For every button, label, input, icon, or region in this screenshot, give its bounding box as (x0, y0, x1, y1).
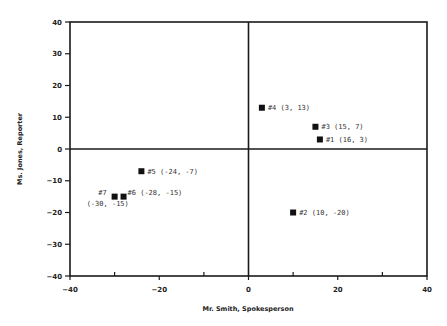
square-marker-icon (138, 168, 144, 174)
y-tick-label: −20 (46, 209, 62, 217)
square-marker-icon (312, 124, 318, 130)
y-tick-label: −40 (46, 273, 62, 281)
point-label: #3 (15, 7) (321, 123, 363, 131)
square-marker-icon (290, 210, 296, 216)
x-tick-label: 0 (246, 286, 251, 294)
y-tick-label: 20 (52, 82, 62, 90)
x-tick-label: −40 (62, 286, 78, 294)
data-point: #2 (10, -20) (290, 209, 350, 217)
y-tick-label: −30 (46, 241, 62, 249)
x-tick-label: 40 (422, 286, 432, 294)
point-label: #5 (-24, -7) (147, 168, 198, 176)
scatter-chart: −40−30−20−10010203040−40−2002040 #1 (16,… (0, 0, 447, 326)
x-tick-label: −20 (151, 286, 167, 294)
y-tick-label: 40 (52, 19, 62, 27)
square-marker-icon (259, 105, 265, 111)
point-label: #7 (98, 189, 106, 197)
data-point: #6 (-28, -15) (121, 189, 183, 200)
plot-frame (70, 22, 427, 276)
y-axis-title: Ms. Jones, Reporter (16, 112, 24, 185)
point-label: #1 (16, 3) (326, 136, 368, 144)
x-tick-label: 20 (333, 286, 343, 294)
data-point: #4 (3, 13) (259, 104, 310, 112)
data-point: #1 (16, 3) (317, 136, 368, 144)
y-tick-label: 10 (52, 114, 62, 122)
data-point: #5 (-24, -7) (138, 168, 198, 176)
y-tick-label: −10 (46, 177, 62, 185)
data-point: #3 (15, 7) (312, 123, 363, 131)
point-label: #4 (3, 13) (268, 104, 310, 112)
point-coords-label: (-30, -15) (87, 200, 129, 208)
y-tick-label: 0 (57, 146, 62, 154)
square-marker-icon (317, 136, 323, 142)
point-label: #6 (-28, -15) (128, 189, 183, 197)
y-tick-label: 30 (52, 50, 62, 58)
x-axis-title: Mr. Smith, Spokesperson (202, 305, 293, 313)
point-label: #2 (10, -20) (299, 209, 350, 217)
data-points: #1 (16, 3)#2 (10, -20)#3 (15, 7)#4 (3, 1… (87, 104, 368, 217)
axis-ticks: −40−30−20−10010203040−40−2002040 (46, 19, 432, 295)
